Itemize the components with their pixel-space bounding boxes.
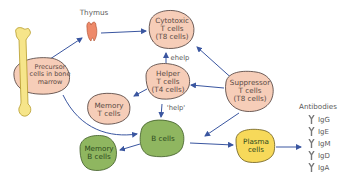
- antibody-label: IgE: [318, 128, 329, 136]
- antibody-label: IgG: [318, 116, 330, 124]
- edge-label-help-lower: 'help': [164, 103, 188, 112]
- plasma-label: Plasma cells: [236, 136, 276, 156]
- thymus-icon: [87, 22, 97, 41]
- antibody-item: IgG: [308, 115, 330, 124]
- antibody-icon: [308, 115, 315, 124]
- memory-t-label: Memory T cells: [88, 99, 130, 121]
- precursor-label: Precursor cells in bone marrow: [28, 62, 72, 88]
- antibody-item: IgE: [308, 127, 329, 136]
- arrow-suppressor-to-helper: [191, 85, 224, 88]
- thymus-label: Thymus: [78, 8, 110, 17]
- cytotoxic-label: Cytotoxic T cells (T8 cells): [150, 14, 194, 44]
- antibody-icon: [308, 151, 315, 160]
- antibody-label: IgD: [318, 152, 330, 160]
- antibody-item: IgD: [308, 151, 330, 160]
- arrow-helper-to-b-cells: [161, 104, 162, 117]
- b-cells-label: B cells: [142, 132, 184, 146]
- antibodies-title: Antibodies: [296, 102, 340, 111]
- memory-b-label: Memory B cells: [80, 142, 118, 164]
- arrow-b-to-plasma: [190, 143, 233, 145]
- antibody-icon: [308, 127, 315, 136]
- antibody-item: IgA: [308, 163, 329, 172]
- arrow-b-to-memory-b: [120, 144, 140, 150]
- arrow-suppressor-to-b-cells: [205, 113, 239, 136]
- antibody-icon: [308, 163, 315, 172]
- edge-label-help-upper: ehelp: [168, 53, 192, 62]
- antibody-item: IgM: [308, 139, 331, 148]
- antibody-label: IgM: [318, 140, 331, 148]
- arrow-thymus-to-cytotoxic: [101, 31, 146, 33]
- antibody-label: IgA: [318, 164, 329, 172]
- helper-label: Helper T cells (T4 cells): [146, 67, 190, 97]
- immune-cell-diagram: Thymus Precursor cells in bone marrow Cy…: [0, 0, 347, 187]
- suppressor-label: Suppressor T cells (T8 cells): [226, 76, 274, 106]
- antibody-icon: [308, 139, 315, 148]
